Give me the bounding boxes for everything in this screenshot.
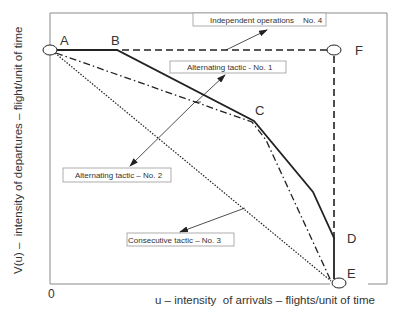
callout-label-no2: Alternating tactic – No. 2 <box>75 171 163 180</box>
callout-arrow-no3 <box>180 208 245 232</box>
x-axis-label: u – intensity of arrivals – flights/unit… <box>155 294 375 306</box>
point-label-a: A <box>60 33 69 48</box>
callout-label-no3: Consecutive tactic – No. 3 <box>128 236 221 245</box>
callout-label-no4: Independent operations No. 4 <box>210 16 323 25</box>
point-f-marker <box>327 45 341 55</box>
callout-arrow-no4 <box>226 30 267 50</box>
callout-alternating-tactic-1: Alternating tactic - No. 1 <box>170 61 286 73</box>
point-a-marker <box>43 45 57 55</box>
point-label-f: F <box>355 43 363 58</box>
callout-label-no1: Alternating tactic - No. 1 <box>187 63 273 72</box>
point-e-marker <box>332 278 346 288</box>
point-label-b: B <box>111 33 120 48</box>
capacity-envelope-diagram: A B C D E F Independent operations No. 4… <box>0 0 406 319</box>
point-label-e: E <box>347 266 356 281</box>
callout-arrow-no2 <box>130 102 201 166</box>
origin-label: 0 <box>48 287 55 301</box>
point-label-d: D <box>347 231 356 246</box>
callout-independent-operations: Independent operations No. 4 <box>193 13 326 26</box>
callout-consecutive-tactic: Consecutive tactic – No. 3 <box>127 233 234 246</box>
y-axis-label: V(u) – intensity of departures – flight/… <box>12 27 24 274</box>
callout-alternating-tactic-2: Alternating tactic – No. 2 <box>63 168 171 182</box>
point-label-c: C <box>255 103 264 118</box>
line-consecutive-tactic <box>55 53 331 281</box>
